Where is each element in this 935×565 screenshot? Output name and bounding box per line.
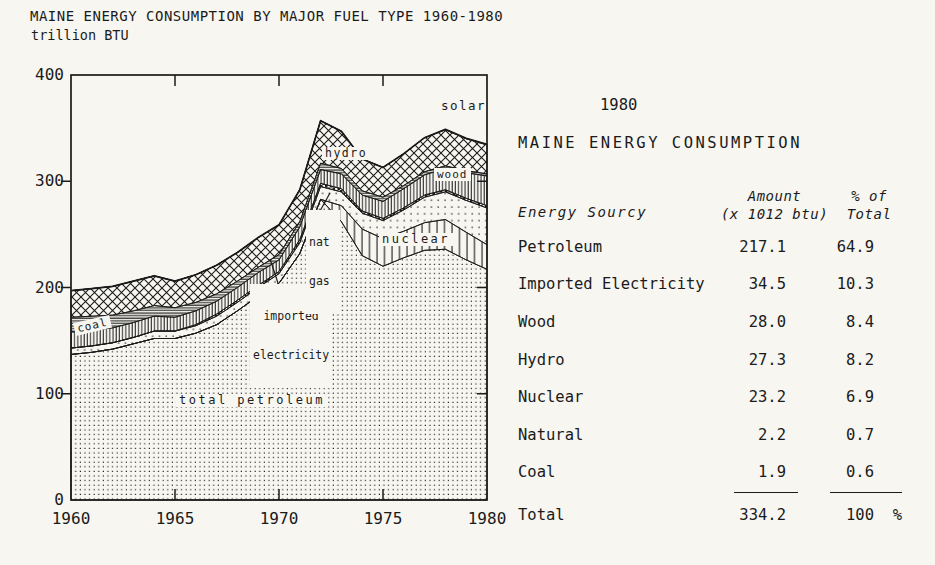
y-tick-label: 400 — [35, 65, 64, 84]
x-tick-label: 1975 — [364, 509, 403, 528]
y-tick-label: 300 — [35, 171, 64, 190]
table-year-heading: 1980 — [600, 96, 637, 114]
table-total-row: Total 334.2 100 % — [512, 496, 924, 534]
pct-sum-rule — [830, 492, 902, 493]
cell-amount: 28.0 — [662, 313, 792, 331]
column-header-amount-line1: Amount — [702, 188, 847, 204]
table-row: Natural2.20.7 — [512, 416, 924, 454]
cell-source: Wood — [512, 313, 662, 331]
area-label-solar: solar — [438, 99, 489, 112]
column-header-pct-line1: % of — [838, 188, 900, 204]
table-row: Petroleum217.164.9 — [512, 228, 924, 266]
cell-pct: 0.7 — [792, 426, 874, 444]
summary-table-1980: 1980 MAINE ENERGY CONSUMPTION Energy Sou… — [512, 94, 924, 554]
cell-amount: 1.9 — [662, 463, 792, 481]
cell-source: Imported Electricity — [512, 275, 662, 293]
area-label-nuclear: nuclear — [379, 233, 453, 246]
area-label-nat-gas: nat gas — [306, 210, 340, 314]
total-amount: 334.2 — [662, 506, 792, 524]
cell-source: Natural — [512, 426, 662, 444]
table-row: Hydro27.38.2 — [512, 341, 924, 379]
table-row: Coal1.90.6 — [512, 454, 924, 492]
y-tick-label: 200 — [35, 278, 64, 297]
area-label-imported-line2: electricity — [253, 349, 329, 362]
x-tick-label: 1980 — [468, 509, 507, 528]
column-header-pct-line2: Total — [838, 206, 900, 222]
total-label: Total — [512, 506, 662, 524]
scanned-report-page: MAINE ENERGY CONSUMPTION BY MAJOR FUEL T… — [0, 0, 935, 565]
cell-source: Hydro — [512, 351, 662, 369]
cell-amount: 23.2 — [662, 388, 792, 406]
table-row: Wood28.08.4 — [512, 303, 924, 341]
cell-amount: 34.5 — [662, 275, 792, 293]
cell-amount: 27.3 — [662, 351, 792, 369]
cell-pct: 10.3 — [792, 275, 874, 293]
table-row: Imported Electricity34.510.3 — [512, 266, 924, 304]
area-label-wood: wood — [434, 168, 471, 181]
x-tick-label: 1960 — [52, 509, 91, 528]
total-pct: 100 % — [792, 506, 902, 524]
area-label-natgas-line1: nat — [309, 236, 337, 249]
cell-pct: 64.9 — [792, 238, 874, 256]
area-label-total-petroleum: total petroleum — [176, 394, 328, 407]
column-header-source: Energy Sourcy — [518, 204, 647, 220]
table-row: Nuclear23.26.9 — [512, 378, 924, 416]
cell-pct: 0.6 — [792, 463, 874, 481]
cell-pct: 6.9 — [792, 388, 874, 406]
cell-pct: 8.4 — [792, 313, 874, 331]
y-tick-label: 100 — [35, 384, 64, 403]
cell-amount: 2.2 — [662, 426, 792, 444]
table-rows: Petroleum217.164.9Imported Electricity34… — [512, 228, 924, 491]
x-tick-label: 1965 — [156, 509, 195, 528]
cell-amount: 217.1 — [662, 238, 792, 256]
area-label-natgas-line2: gas — [309, 275, 337, 288]
amount-sum-rule — [734, 492, 798, 493]
cell-source: Petroleum — [512, 238, 662, 256]
column-header-amount-line2: (x 1012 btu) — [702, 206, 847, 222]
y-tick-label: 0 — [54, 490, 64, 509]
cell-source: Coal — [512, 463, 662, 481]
cell-source: Nuclear — [512, 388, 662, 406]
cell-pct: 8.2 — [792, 351, 874, 369]
area-label-hydro: hydro — [322, 147, 370, 160]
table-title: MAINE ENERGY CONSUMPTION — [518, 134, 802, 152]
x-tick-label: 1970 — [260, 509, 299, 528]
stacked-area-chart: 010020030040019601965197019751980 — [0, 0, 520, 565]
